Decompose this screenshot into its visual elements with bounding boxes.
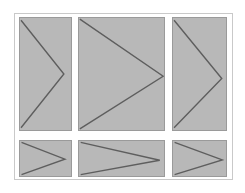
panel-row-top — [15, 14, 232, 134]
chevron-right-icon — [79, 18, 164, 130]
panel-bottom-right[interactable] — [172, 140, 227, 177]
chevron-right-icon — [20, 141, 71, 176]
chevron-right-icon — [20, 18, 71, 130]
panel-grid-frame — [14, 13, 233, 180]
panel-top-right[interactable] — [172, 17, 227, 131]
panel-bottom-center[interactable] — [78, 140, 165, 177]
chevron-right-icon — [173, 18, 226, 130]
chevron-right-icon — [173, 141, 226, 176]
screenshot-root — [0, 0, 245, 193]
chevron-right-icon — [79, 141, 164, 176]
panel-row-bottom — [15, 137, 232, 181]
panel-top-left[interactable] — [19, 17, 72, 131]
panel-top-center[interactable] — [78, 17, 165, 131]
panel-bottom-left[interactable] — [19, 140, 72, 177]
